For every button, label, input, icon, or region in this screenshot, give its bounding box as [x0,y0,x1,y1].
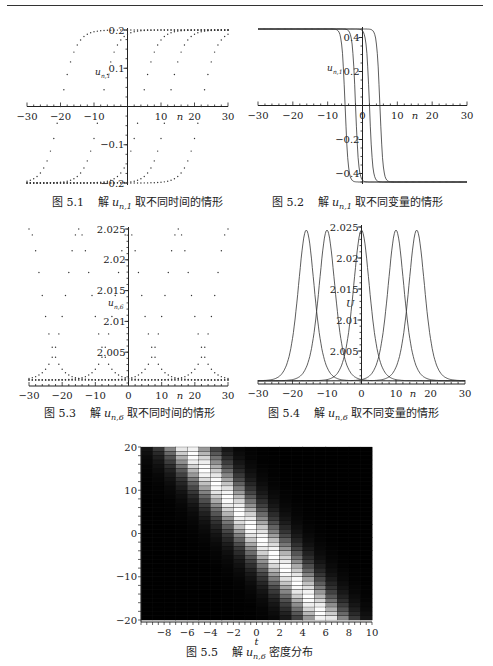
figure-canvas: −30−20−10102030n−0.2−0.10.10.2un,1−30−20… [0,0,493,666]
svg-text:−20: −20 [50,111,71,122]
svg-text:n,6: n,6 [114,303,124,310]
svg-text:n,1: n,1 [333,68,343,75]
svg-text:2.01: 2.01 [336,315,358,326]
svg-text:−4: −4 [203,627,218,638]
svg-text:2.015: 2.015 [97,285,126,296]
svg-text:8: 8 [346,627,352,638]
svg-text:2.005: 2.005 [97,347,126,358]
svg-text:2.025: 2.025 [97,224,126,235]
svg-text:2.025: 2.025 [330,222,359,233]
svg-text:−20: −20 [282,110,303,121]
svg-text:10: 10 [124,485,137,496]
chart-fig-5-2: −30−20−100102030n−0.4−0.20.20.4un,1 [247,27,473,184]
svg-text:−30: −30 [247,388,268,399]
svg-text:2.02: 2.02 [336,253,358,264]
svg-text:0: 0 [131,528,137,539]
svg-text:n: n [177,390,183,401]
svg-text:U: U [346,298,355,309]
svg-text:30: 30 [222,390,235,401]
svg-text:n: n [177,111,183,122]
svg-text:−10: −10 [317,110,338,121]
svg-text:−6: −6 [180,627,195,638]
chart-fig-5-5: −8−6−4−20246810t−20−1001020 [116,442,378,648]
svg-text:n: n [410,388,416,399]
svg-text:−2: −2 [226,627,241,638]
svg-text:20: 20 [188,111,201,122]
svg-text:2.01: 2.01 [103,316,125,327]
svg-text:0: 0 [359,110,365,121]
svg-text:−30: −30 [247,110,268,121]
svg-text:0: 0 [358,388,364,399]
svg-text:10: 10 [366,627,379,638]
svg-text:n: n [412,110,418,121]
svg-text:20: 20 [124,442,137,453]
svg-text:−10: −10 [85,390,106,401]
chart-fig-5-1: −30−20−10102030n−0.2−0.10.10.2un,1 [16,25,234,189]
svg-text:−0.4: −0.4 [335,168,359,179]
caption-fig-5-5: 图 5.5 解 un,6 密度分布 [186,643,313,661]
caption-fig-5-3: 图 5.3 解 un,6 取不同时间的情形 [44,404,215,422]
svg-text:10: 10 [155,111,168,122]
svg-text:0.1: 0.1 [109,63,125,74]
svg-text:−10: −10 [116,571,137,582]
svg-text:−10: −10 [83,111,104,122]
svg-text:2.02: 2.02 [103,254,125,265]
svg-text:−20: −20 [116,615,137,626]
svg-text:10: 10 [155,390,168,401]
svg-text:4: 4 [300,627,306,638]
svg-text:30: 30 [222,111,235,122]
svg-text:−20: −20 [282,388,303,399]
svg-text:−10: −10 [316,388,337,399]
svg-text:−8: −8 [157,627,172,638]
svg-text:20: 20 [426,110,439,121]
svg-text:0: 0 [125,390,131,401]
svg-text:−20: −20 [52,390,73,401]
chart-fig-5-3: −30−20−100102030n2.0052.012.0152.022.025… [18,224,234,402]
svg-text:2: 2 [276,627,282,638]
svg-text:20: 20 [424,388,437,399]
caption-fig-5-1: 图 5.1 解 un,1 取不同时间的情形 [52,193,223,211]
svg-text:30: 30 [461,110,474,121]
svg-text:10: 10 [390,388,403,399]
chart-fig-5-4: −30−20−100102030n2.0052.012.0152.022.025… [247,222,471,400]
svg-text:0.2: 0.2 [344,66,360,77]
caption-fig-5-4: 图 5.4 解 un,6 取不同变量的情形 [268,404,439,422]
svg-text:−30: −30 [18,390,39,401]
svg-text:10: 10 [391,110,404,121]
svg-text:30: 30 [459,388,472,399]
svg-text:n,1: n,1 [101,72,111,79]
svg-text:6: 6 [323,627,329,638]
svg-text:−0.2: −0.2 [335,134,359,145]
svg-text:20: 20 [188,390,201,401]
svg-text:2.015: 2.015 [330,284,359,295]
svg-text:−0.1: −0.1 [100,139,124,150]
caption-fig-5-2: 图 5.2 解 un,1 取不同变量的情形 [272,193,443,211]
svg-text:−30: −30 [16,111,37,122]
